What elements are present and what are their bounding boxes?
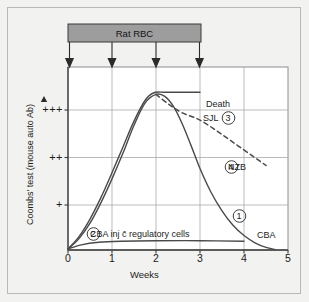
plot-frame <box>68 67 288 250</box>
treatment-bar-label: Rat RBC <box>68 29 201 39</box>
marker-number-1: 1 <box>237 212 242 221</box>
y-tick-label-3: +++ <box>30 104 63 115</box>
x-tick-label-1: 1 <box>103 253 121 264</box>
injection-arrows <box>66 42 203 67</box>
injection-arrow-week1 <box>108 42 115 67</box>
x-tick-label-0: 0 <box>59 253 77 264</box>
x-tick-label-5: 5 <box>279 253 297 264</box>
marker-number-3: 3 <box>226 114 231 123</box>
up-arrow-icon <box>41 96 47 102</box>
marker-number-2: 2 <box>91 230 96 239</box>
marker-number-4: 4 <box>229 163 234 172</box>
injection-arrow-week3 <box>196 42 203 67</box>
death-annotation: Death <box>206 100 230 109</box>
figure-container: Rat RBC +++ ++ + 0 1 2 3 4 5 Weeks Coomb… <box>0 0 309 302</box>
cba-series-label: CBA <box>257 231 276 240</box>
x-tick-label-2: 2 <box>147 253 165 264</box>
injection-arrow-week0 <box>66 42 73 67</box>
y-tick-label-2: ++ <box>30 152 63 163</box>
injection-arrow-week2 <box>152 42 159 67</box>
x-axis-title: Weeks <box>130 270 159 280</box>
sjl-series-label: SJL <box>203 114 219 123</box>
y-tick-label-1: + <box>30 199 63 210</box>
x-tick-label-3: 3 <box>191 253 209 264</box>
y-axis-title: Coombs' test (mouse auto Ab) <box>26 85 35 245</box>
x-tick-label-4: 4 <box>235 253 253 264</box>
cba-regulatory-series-label: CBA inj c̄ regulatory cells <box>90 230 190 239</box>
